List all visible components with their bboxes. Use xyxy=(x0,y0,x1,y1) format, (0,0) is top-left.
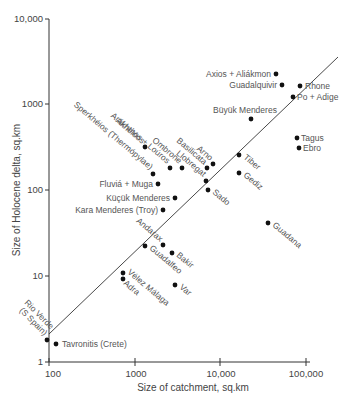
data-point xyxy=(173,283,178,288)
data-point xyxy=(161,243,166,248)
data-point xyxy=(180,166,185,171)
data-point xyxy=(295,136,300,141)
point-label: Tagus xyxy=(301,133,324,143)
y-tick-label: 100 xyxy=(27,184,43,195)
y-tick-label: 10,000 xyxy=(14,13,43,24)
data-point xyxy=(298,84,303,89)
point-label: Po + Adige xyxy=(297,92,339,102)
point-label: Fluviá + Muga xyxy=(99,179,153,189)
data-point xyxy=(170,251,175,256)
point-label: Gediz xyxy=(242,170,265,192)
data-point xyxy=(249,117,254,122)
point-label: Sado xyxy=(211,187,233,208)
data-point xyxy=(143,145,148,150)
data-point xyxy=(151,172,156,177)
data-point xyxy=(266,221,271,226)
data-point xyxy=(161,208,166,213)
point-label: Rhone xyxy=(305,81,330,91)
point-label: Var xyxy=(178,282,194,298)
point-label: Küçük Menderes xyxy=(106,193,170,203)
point-label: Kara Menderes (Troy) xyxy=(75,205,158,215)
data-point xyxy=(121,271,126,276)
x-ticks: 100 1000 10,000 100,000 xyxy=(45,358,323,379)
data-point xyxy=(274,72,279,77)
y-tick-label: 1 xyxy=(38,356,43,367)
data-point xyxy=(54,342,59,347)
x-tick-label: 100,000 xyxy=(289,368,323,379)
point-label: Ebro xyxy=(303,143,321,153)
data-point xyxy=(204,179,209,184)
point-label: Tiber xyxy=(242,152,263,172)
point-label: Guadana xyxy=(271,220,304,250)
data-point xyxy=(168,166,173,171)
data-point xyxy=(206,188,211,193)
data-point xyxy=(237,153,242,158)
point-label: Axios + Aliákmon xyxy=(206,69,271,79)
y-tick-label: 10 xyxy=(32,270,43,281)
point-label: Andarax xyxy=(134,216,165,244)
x-tick-label: 10,000 xyxy=(206,368,235,379)
scatter-chart: 10,000 1000 100 10 1 100 1000 10,000 100… xyxy=(0,0,352,404)
point-label: Guadalquivir xyxy=(229,80,277,90)
data-point xyxy=(156,182,161,187)
y-axis-title: Size of Holocene delta, sq.km xyxy=(11,124,22,256)
data-point xyxy=(173,196,178,201)
data-point xyxy=(237,171,242,176)
data-point xyxy=(143,244,148,249)
point-label: Büyük Menderes xyxy=(213,105,277,115)
data-point xyxy=(291,95,296,100)
data-point xyxy=(297,146,302,151)
data-point xyxy=(280,83,285,88)
y-tick-label: 1000 xyxy=(22,98,43,109)
x-tick-label: 1000 xyxy=(125,368,146,379)
point-label: Tavronitis (Crete) xyxy=(62,339,127,349)
point-label: Rio Verde (S Spain) xyxy=(16,298,56,338)
x-axis-title: Size of catchment, sq.km xyxy=(137,382,249,393)
data-point xyxy=(45,338,50,343)
data-points: Axios + Aliákmon Guadalquivir Rhone Po +… xyxy=(16,69,338,349)
data-point xyxy=(211,162,216,167)
x-tick-label: 100 xyxy=(45,368,61,379)
